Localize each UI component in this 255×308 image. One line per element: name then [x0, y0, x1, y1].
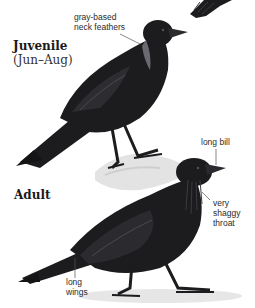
callout-very-shaggy-throat: very shaggy throat [213, 199, 240, 228]
callout-long-wings: long wings [66, 278, 88, 298]
callout-line-shaggy-throat [202, 192, 210, 200]
adult-title: Adult [14, 189, 51, 203]
callout-long-bill: long bill [201, 138, 230, 148]
callout-line-neck-feathers [120, 34, 140, 44]
adult-ground-shadow [78, 289, 242, 303]
adult-heading: Adult [14, 189, 51, 203]
field-guide-page: Juvenile (Jun–Aug) Adult gray-based neck… [0, 0, 255, 308]
callout-gray-based-neck-feathers: gray-based neck feathers [74, 13, 125, 33]
partial-bird-wingtip-icon [190, 0, 232, 18]
juvenile-title: Juvenile [13, 40, 73, 54]
juvenile-season: (Jun–Aug) [13, 54, 73, 68]
juvenile-heading: Juvenile (Jun–Aug) [13, 40, 73, 68]
